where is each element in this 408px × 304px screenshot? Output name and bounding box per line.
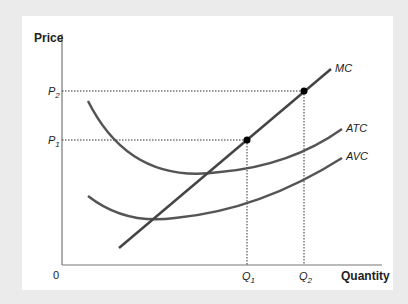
p1-label: P1 xyxy=(48,134,60,149)
q1-label: Q1 xyxy=(242,270,255,285)
atc-label: ATC xyxy=(345,122,367,134)
x-axis-label: Quantity xyxy=(341,269,390,283)
mc-label: MC xyxy=(335,62,352,74)
p2-label: P2 xyxy=(48,85,60,100)
avc-label: AVC xyxy=(345,150,368,162)
point-p2-q2 xyxy=(301,88,308,95)
cost-curves-chart: Price Quantity 0 P2 P1 Q1 Q2 MC ATC AVC xyxy=(0,0,408,304)
y-axis-label: Price xyxy=(34,31,64,45)
point-p1-q1 xyxy=(244,137,251,144)
mc-curve xyxy=(119,69,331,248)
q2-label: Q2 xyxy=(299,270,313,285)
origin-label: 0 xyxy=(53,269,59,281)
